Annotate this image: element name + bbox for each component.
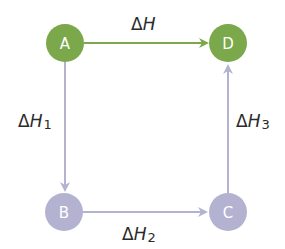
- edge-label-delta-h1: ΔH1: [18, 111, 52, 131]
- node-d: D: [209, 24, 247, 62]
- node-a: A: [46, 24, 84, 62]
- node-a-label: A: [60, 35, 71, 53]
- edge-label-delta-h2: ΔH2: [122, 224, 156, 244]
- node-d-label: D: [222, 35, 234, 53]
- hess-cycle-diagram: A D B C ΔH ΔH1 ΔH2 ΔH3: [0, 0, 285, 249]
- node-b-label: B: [59, 204, 69, 222]
- node-c: C: [209, 193, 247, 231]
- node-c-label: C: [223, 204, 233, 222]
- edge-label-delta-h3: ΔH3: [236, 111, 270, 131]
- edge-label-delta-h: ΔH: [131, 14, 155, 34]
- node-b: B: [45, 193, 83, 231]
